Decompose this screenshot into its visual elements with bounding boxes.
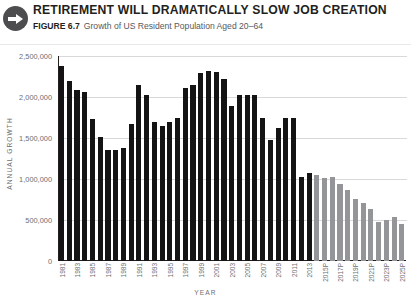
figure-line: FIGURE 6.7Growth of US Resident Populati… [33, 21, 263, 31]
page-title: RETIREMENT WILL DRAMATICALLY SLOW JOB CR… [33, 3, 387, 17]
bar-2013 [307, 173, 312, 261]
bar-2010 [283, 118, 288, 261]
bar-2003 [229, 106, 234, 261]
bar-1999 [198, 73, 203, 261]
bar-1990 [129, 124, 134, 261]
x-axis-title: YEAR [0, 289, 411, 296]
bar-1985 [90, 119, 95, 261]
x-tick-label: 2023P [383, 263, 390, 282]
bar-2023P [384, 220, 389, 261]
bar-1996 [175, 118, 180, 261]
bar-1998 [190, 85, 195, 261]
x-tick-label: 1981 [58, 263, 65, 277]
x-tick-label: 2019P [352, 263, 359, 282]
bar-1987 [105, 150, 110, 261]
x-tick-label: 1985 [89, 263, 96, 277]
y-tick-label: 1,500,000 [19, 134, 52, 143]
x-tick-label: 1989 [120, 263, 127, 277]
bar-2009 [276, 128, 281, 261]
bar-2001 [214, 72, 219, 261]
bar-2005 [245, 95, 250, 261]
y-tick-label: 2,000,000 [19, 93, 52, 102]
bar-1993 [152, 122, 157, 261]
bar-2018P [345, 190, 350, 261]
bar-1991 [136, 85, 141, 261]
x-tick-label: 2003 [228, 263, 235, 277]
bar-2020P [361, 203, 366, 261]
x-tick-label: 2017P [336, 263, 343, 282]
chart-header: RETIREMENT WILL DRAMATICALLY SLOW JOB CR… [0, 0, 411, 40]
figure-label: FIGURE 6.7 [33, 21, 80, 31]
bar-2025P [399, 224, 404, 261]
x-tick-label: 2015P [321, 263, 328, 282]
y-tick-label: 500,000 [25, 216, 52, 225]
x-tick-label: 2013 [306, 263, 313, 277]
bar-1984 [82, 92, 87, 261]
bar-2011 [291, 118, 296, 262]
bar-2000 [206, 71, 211, 261]
bar-2014P [314, 175, 319, 261]
bar-2024P [392, 217, 397, 261]
x-tick-label: 1991 [135, 263, 142, 277]
bar-series [58, 56, 406, 261]
bar-2016P [330, 177, 335, 261]
bar-1989 [121, 148, 126, 261]
bar-1981 [59, 66, 64, 261]
x-tick-label: 2025P [398, 263, 405, 282]
x-tick-label: 1983 [74, 263, 81, 277]
y-axis-title: ANNUAL GROWTH [6, 104, 13, 204]
x-tick-label: 2021P [367, 263, 374, 282]
bar-1994 [160, 126, 165, 261]
bar-2006 [252, 95, 257, 261]
x-tick-label: 2001 [213, 263, 220, 277]
arrow-head [16, 14, 23, 24]
x-tick-label: 1987 [104, 263, 111, 277]
bar-2002 [221, 79, 226, 261]
x-tick-label: 1995 [166, 263, 173, 277]
bar-1988 [113, 150, 118, 261]
bar-1986 [98, 137, 103, 261]
bar-1997 [183, 88, 188, 261]
x-tick-label: 2009 [275, 263, 282, 277]
bar-2007 [260, 118, 265, 261]
bar-2021P [368, 209, 373, 261]
bar-2017P [337, 184, 342, 261]
x-tick-label: 2005 [244, 263, 251, 277]
header-divider [0, 44, 411, 45]
figure-caption: Growth of US Resident Population Aged 20… [84, 21, 263, 31]
x-tick-label: 1999 [197, 263, 204, 277]
bar-2022P [376, 222, 381, 261]
bar-2019P [353, 199, 358, 261]
x-tick-label: 2007 [259, 263, 266, 277]
bar-1995 [167, 122, 172, 261]
bar-2015P [322, 178, 327, 261]
right-arrow-circle-icon [3, 6, 28, 31]
y-tick-label: 2,500,000 [19, 52, 52, 61]
bar-2008 [268, 140, 273, 261]
bar-1983 [74, 90, 79, 261]
y-tick-label: 0 [48, 257, 52, 266]
plot-wrapper [58, 56, 406, 261]
x-tick-label: 2011 [290, 263, 297, 277]
x-tick-label: 1997 [182, 263, 189, 277]
bar-2004 [237, 95, 242, 261]
bar-2012 [299, 177, 304, 261]
x-tick-label: 1993 [151, 263, 158, 277]
y-tick-label: 1,000,000 [19, 175, 52, 184]
bar-1992 [144, 95, 149, 261]
bar-1982 [67, 81, 72, 261]
